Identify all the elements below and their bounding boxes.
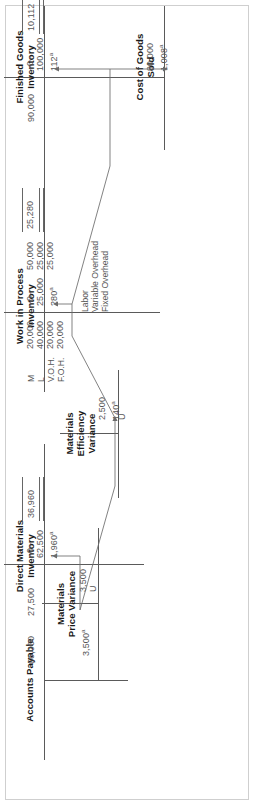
connector-mev-to-wip <box>55 304 115 418</box>
arrowhead-mev <box>112 416 117 421</box>
arrowhead-fgi <box>54 66 59 71</box>
t-account-diagram: Accounts Payable 66,000 Materials Price … <box>0 0 254 806</box>
arrowhead-cogs <box>163 66 168 71</box>
figure-frame: Accounts Payable 66,000 Materials Price … <box>0 0 254 806</box>
connector-mpv-to-dmi <box>54 556 80 610</box>
arrowhead-dmi <box>52 553 57 558</box>
arrowhead-wip <box>53 301 58 306</box>
connector-mpv-to-mev <box>80 418 115 610</box>
connector-wip-to-fgi <box>56 69 110 304</box>
connector-lines <box>0 0 254 806</box>
